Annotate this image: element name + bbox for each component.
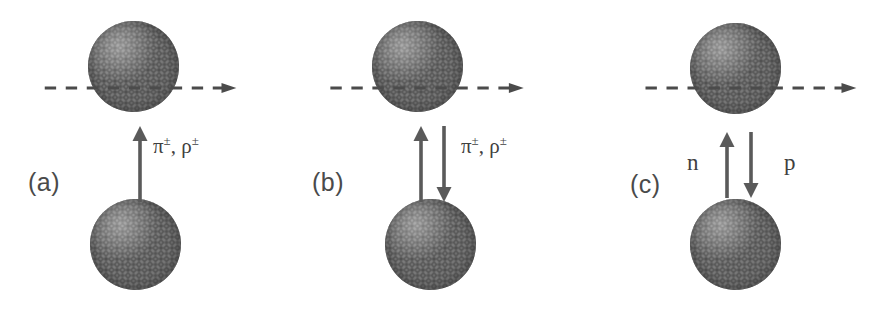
panel-c-proton-label: p	[784, 150, 796, 176]
panel-b: π±, ρ± (b)	[293, 0, 586, 313]
nucleus-shading	[90, 199, 181, 290]
panel-a-label: (a)	[28, 168, 60, 197]
nucleus-shading	[88, 21, 179, 112]
panel-c-label: (c)	[630, 170, 661, 199]
dashed-arrow-right-icon	[313, 81, 563, 95]
arrow-up-icon	[409, 124, 433, 204]
arrow-up-icon	[128, 124, 152, 204]
panel-c-top-nucleus	[690, 23, 781, 114]
dashed-arrow-right-icon	[628, 81, 879, 95]
panel-b-exchange-label: π±, ρ±	[461, 133, 507, 159]
arrow-down-icon	[739, 130, 763, 200]
panel-b-label: (b)	[312, 168, 344, 197]
arrow-down-icon	[432, 124, 456, 204]
nuclear-exchange-figure: π±, ρ± (a) π±, ρ± (	[0, 0, 879, 313]
panel-a-exchange-label: π±, ρ±	[153, 133, 199, 159]
exchange-label-text: π±, ρ±	[461, 134, 507, 158]
panel-c: n p (c)	[586, 0, 879, 313]
panel-a: π±, ρ± (a)	[0, 0, 293, 313]
panel-b-bottom-nucleus	[385, 199, 476, 290]
arrow-up-icon	[715, 130, 739, 200]
panel-b-top-nucleus	[372, 21, 463, 112]
panel-a-bottom-nucleus	[90, 199, 181, 290]
nucleus-shading	[690, 23, 781, 114]
nucleus-shading	[372, 21, 463, 112]
panel-c-bottom-nucleus	[690, 199, 781, 290]
nucleus-shading	[385, 199, 476, 290]
dashed-arrow-right-icon	[28, 81, 268, 95]
panel-a-top-nucleus	[88, 21, 179, 112]
exchange-label-text: π±, ρ±	[153, 134, 199, 158]
nucleus-shading	[690, 199, 781, 290]
panel-c-neutron-label: n	[687, 150, 699, 176]
